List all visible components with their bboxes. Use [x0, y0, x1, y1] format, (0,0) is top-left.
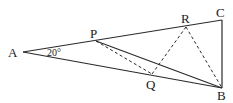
label-Q: Q	[146, 77, 156, 92]
label-C: C	[216, 5, 225, 20]
label-P: P	[90, 26, 97, 41]
label-B: B	[217, 88, 226, 103]
segment-QR	[152, 27, 186, 74]
angle-label-A: 20°	[47, 47, 61, 58]
segment-PQ	[96, 41, 152, 74]
label-A: A	[8, 45, 18, 60]
label-R: R	[181, 11, 190, 26]
triangle-diagram: A 20° P R C Q B	[0, 0, 233, 103]
segment-RB	[186, 27, 222, 88]
